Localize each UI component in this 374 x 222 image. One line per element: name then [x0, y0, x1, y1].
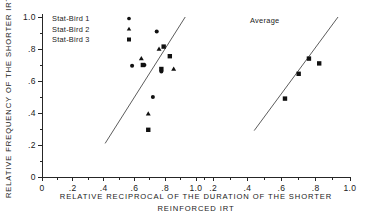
y-axis-title: RELATIVE FREQUENCY OF THE SHORTER IRT: [4, 0, 13, 198]
data-point-triangle: [157, 46, 162, 50]
data-point-square: [283, 96, 287, 100]
x-tick-label: 0: [39, 183, 44, 193]
legend-label: Stat-Bird 2: [52, 25, 90, 34]
data-point-square: [307, 56, 311, 60]
y-tick-label: .6: [28, 76, 36, 86]
data-point-square: [141, 63, 145, 67]
data-point-square: [161, 44, 165, 48]
data-point-square: [168, 54, 172, 58]
legend-marker-square: [127, 38, 131, 42]
regression-line: [254, 17, 338, 131]
y-tick-label: .2: [28, 140, 36, 150]
plot-canvas: 1.0.8.6.4.20 0.2.4.6.81.0.2.4.6.81.0 Sta…: [0, 0, 374, 222]
y-axis: 1.0.8.6.4.20: [23, 12, 42, 182]
data-point-square: [296, 72, 300, 76]
data-point-square: [146, 128, 150, 132]
x-axis: 0.2.4.6.81.0.2.4.6.81.0: [39, 177, 356, 193]
data-point-square: [317, 61, 321, 65]
data-point-square: [159, 67, 163, 71]
data-point-circle: [151, 95, 155, 99]
y-tick-label: 1.0: [23, 12, 36, 22]
legend-marker-triangle: [127, 27, 131, 31]
data-point-triangle: [146, 111, 151, 115]
data-point-triangle: [139, 56, 144, 60]
panel-annotation-average: Average: [250, 16, 280, 25]
scatter-plot-figure: 1.0.8.6.4.20 0.2.4.6.81.0.2.4.6.81.0 Sta…: [0, 0, 374, 222]
y-tick-label: .8: [28, 44, 36, 54]
y-tick-label: 0: [31, 172, 36, 182]
data-point-circle: [130, 64, 134, 68]
x-axis-title-line2: REINFORCED IRT: [157, 204, 234, 213]
x-axis-title-line1: RELATIVE RECIPROCAL OF THE DURATION OF T…: [60, 192, 332, 201]
data-point-triangle: [171, 66, 176, 70]
legend-marker-circle: [127, 17, 131, 21]
legend-label: Stat-Bird 3: [52, 35, 90, 44]
data-points: [130, 29, 321, 132]
legend-label: Stat-Bird 1: [52, 14, 90, 23]
regression-lines: [105, 17, 338, 143]
regression-line: [105, 17, 185, 143]
x-tick-label: 1.0: [343, 183, 356, 193]
y-tick-label: .4: [28, 108, 36, 118]
legend: Stat-Bird 1Stat-Bird 2Stat-Bird 3Average: [52, 14, 280, 44]
data-point-circle: [155, 29, 159, 33]
